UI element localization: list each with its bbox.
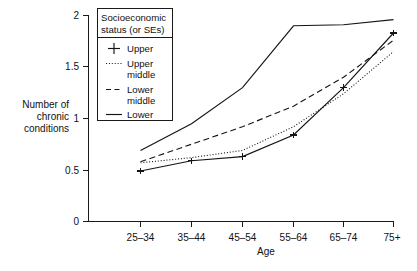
legend-title-line-1: status (or SEs) xyxy=(101,24,164,35)
y-axis-title-line-1: chronic xyxy=(37,111,69,122)
x-tick-label-5: 75+ xyxy=(384,232,401,243)
y-axis-title-line-2: conditions xyxy=(24,123,69,134)
legend-item-lower-label: Lower xyxy=(127,109,154,120)
legend-item-lower-middle-label-1: middle xyxy=(127,95,155,106)
x-tick-label-2: 45–54 xyxy=(229,232,257,243)
y-tick-label-2: 1 xyxy=(73,113,79,124)
legend-item-upper-label: Upper xyxy=(127,43,154,54)
y-tick-label-3: 1.5 xyxy=(65,61,79,72)
chart-figure: 2 1.5 1 0.5 0 Number of chronic conditio… xyxy=(0,0,417,271)
y-tick-label-0: 0 xyxy=(73,216,79,227)
x-tick-label-3: 55–64 xyxy=(280,232,308,243)
y-tick-label-1: 0.5 xyxy=(65,165,79,176)
x-tick-label-4: 65–74 xyxy=(330,232,358,243)
series-line-upper xyxy=(141,33,394,171)
series-line-lower xyxy=(141,20,394,151)
series-markers-upper xyxy=(137,30,396,174)
y-tick-label-4: 2 xyxy=(73,10,79,21)
legend-item-upper-middle-label-0: Upper xyxy=(127,58,154,69)
x-axis-title: Age xyxy=(257,246,275,257)
y-axis-title: Number of chronic conditions xyxy=(22,99,69,134)
legend: Socioeconomic status (or SEs) Upper Uppe… xyxy=(98,9,173,121)
x-tick-label-1: 35–44 xyxy=(178,232,206,243)
y-axis-title-line-0: Number of xyxy=(22,99,69,110)
legend-title-line-0: Socioeconomic xyxy=(101,12,166,23)
x-tick-label-0: 25–34 xyxy=(127,232,155,243)
series-group xyxy=(137,20,396,175)
x-axis: 25–34 35–44 45–54 55–64 65–74 75+ Age xyxy=(89,222,401,258)
chronic-conditions-line-chart: 2 1.5 1 0.5 0 Number of chronic conditio… xyxy=(0,0,417,271)
legend-item-upper-middle-label-1: middle xyxy=(127,69,155,80)
legend-item-lower-middle-label-0: Lower xyxy=(127,84,154,95)
